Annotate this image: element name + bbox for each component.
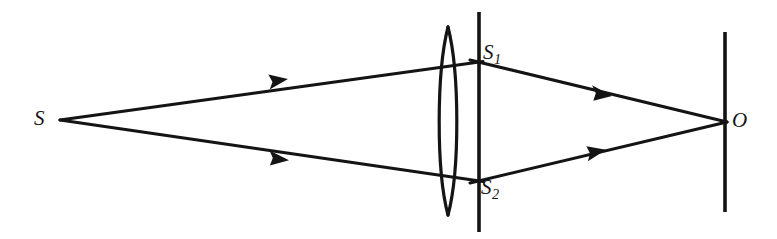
diagram-canvas [0, 0, 777, 239]
label-observation-point-o: O [732, 110, 747, 131]
upper-incident-ray [60, 62, 483, 121]
label-slit-s2-subscript: 2 [492, 186, 499, 202]
label-slit-s1-base: S [483, 40, 494, 64]
arrowhead-upper-incident-icon [268, 74, 288, 90]
lens-left-surface [439, 27, 448, 215]
label-slit-s2: S2 [481, 177, 499, 201]
ray-group-emergent [470, 60, 727, 183]
label-slit-s1-subscript: 1 [494, 51, 501, 67]
label-source-s: S [34, 108, 45, 129]
label-slit-s1: S1 [483, 42, 501, 66]
lens-right-surface [448, 27, 457, 215]
converging-lens [439, 27, 457, 215]
optics-ray-diagram: S S1 S2 O [0, 0, 777, 239]
label-slit-s2-base: S [481, 175, 492, 199]
lower-incident-ray [60, 120, 483, 182]
